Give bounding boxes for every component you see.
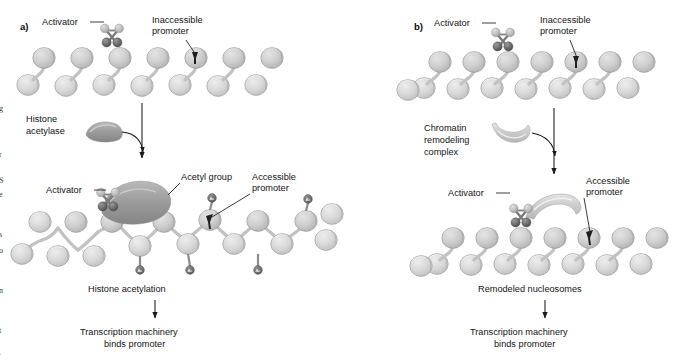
figure-canvas: g r S e s o n t . [0, 0, 681, 362]
label-outcome-a-l1: Transcription machinery [80, 327, 178, 337]
nucleosome-row-upper [33, 48, 283, 69]
label-activator-a-top: Activator [42, 17, 78, 27]
panel-b-top-chromatin [397, 28, 655, 100]
leader-acetyl-group [168, 183, 180, 195]
label-outcome-b-l1: Transcription machinery [470, 327, 568, 337]
label-activator-b-bottom: Activator [448, 188, 484, 198]
label-inaccessible-promoter-b-l1: Inaccessible [540, 15, 591, 25]
label-accessible-promoter-b-l2: promoter [586, 187, 623, 197]
label-accessible-promoter-a-l1: Accessible [252, 172, 296, 182]
chromatin-remodeling-diagram: Ac a) [0, 0, 681, 362]
activator-molecule [101, 24, 124, 47]
activator-molecule-b-top [492, 28, 515, 51]
label-histone-acetylation: Histone acetylation [88, 284, 166, 294]
panel-b: b) [397, 15, 668, 349]
label-outcome-b-l2: binds promoter [494, 339, 555, 349]
acetylase-action-arrow [122, 132, 143, 152]
panel-a: a) [11, 15, 343, 349]
label-inaccessible-promoter-a-l2: promoter [152, 26, 189, 36]
panel-a-bottom-chromatin [11, 181, 343, 274]
nucleosome-row-upper-b [429, 52, 655, 73]
label-outcome-a-l2: binds promoter [104, 339, 165, 349]
panel-b-id: b) [414, 21, 423, 32]
label-activator-b-top: Activator [434, 18, 470, 28]
label-accessible-promoter-b-l1: Accessible [586, 176, 630, 186]
remodeling-action-arrow [532, 133, 555, 156]
label-histone-acetylase-l1: Histone [26, 114, 57, 124]
label-chromatin-complex-l3: complex [424, 147, 459, 157]
label-histone-acetylase-l2: acetylase [26, 126, 65, 136]
label-remodeled-nucleosomes: Remodeled nucleosomes [478, 284, 582, 294]
chromatin-remodeling-complex-shape [492, 123, 530, 142]
label-acetyl-group: Acetyl group [181, 172, 232, 182]
panel-a-id: a) [20, 21, 29, 32]
panel-b-bottom-chromatin [410, 194, 668, 276]
label-activator-a-bottom: Activator [46, 185, 82, 195]
nucleosome-row-lower [17, 75, 267, 97]
label-chromatin-complex-l2: remodeling [424, 135, 469, 145]
leader-accessible-promoter-b [584, 198, 590, 232]
panel-a-top-chromatin [17, 24, 283, 96]
leader-accessible-promoter-a [212, 194, 250, 217]
label-inaccessible-promoter-a-l1: Inaccessible [152, 15, 203, 25]
chromatin-remodeling-complex-bound [526, 194, 581, 219]
nucleosome-row-upper-b2 [442, 228, 668, 249]
label-accessible-promoter-a-l2: promoter [252, 183, 289, 193]
label-inaccessible-promoter-b-l2: promoter [540, 26, 577, 36]
label-chromatin-complex-l1: Chromatin [424, 123, 466, 133]
